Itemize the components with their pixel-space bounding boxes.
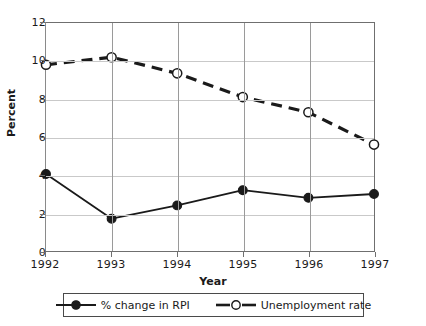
x-tick-label: 1993 (81, 258, 141, 271)
legend-swatch-solid-filled-circle (56, 299, 96, 311)
x-tick-mark (243, 252, 244, 257)
plot-area (45, 22, 375, 252)
y-axis-title: Percent (5, 89, 18, 137)
data-point-marker (238, 186, 247, 195)
x-axis-title: Year (0, 275, 426, 288)
legend-label-unemployment: Unemployment rate (261, 299, 371, 312)
gridline-vertical (178, 23, 179, 251)
gridline-horizontal (46, 61, 374, 62)
gridline-horizontal (46, 176, 374, 177)
chart-legend: % change in RPI Unemployment rate (63, 293, 364, 317)
x-tick-mark (375, 252, 376, 257)
x-tick-label: 1994 (147, 258, 207, 271)
legend-label-rpi: % change in RPI (101, 299, 190, 312)
x-tick-mark (111, 252, 112, 257)
y-tick-mark (40, 175, 45, 176)
y-tick-mark (40, 22, 45, 23)
gridline-vertical (112, 23, 113, 251)
data-point-marker (369, 140, 378, 149)
gridline-horizontal (46, 215, 374, 216)
legend-swatch-solid-open-circle (216, 299, 256, 311)
x-tick-label: 1996 (279, 258, 339, 271)
chart-figure: 024681012 199219931994199519961997 Perce… (0, 0, 426, 326)
gridline-horizontal (46, 138, 374, 139)
series-layer (46, 23, 374, 251)
x-tick-label: 1995 (213, 258, 273, 271)
data-point-marker (370, 190, 379, 199)
y-tick-mark (40, 137, 45, 138)
gridline-horizontal (46, 100, 374, 101)
legend-item-unemployment: Unemployment rate (216, 299, 371, 312)
x-tick-mark (45, 252, 46, 257)
legend-item-rpi: % change in RPI (56, 299, 190, 312)
y-tick-mark (40, 214, 45, 215)
data-point-marker (304, 108, 313, 117)
gridline-vertical (244, 23, 245, 251)
x-tick-label: 1992 (15, 258, 75, 271)
x-tick-label: 1997 (345, 258, 405, 271)
data-point-marker (304, 193, 313, 202)
gridline-vertical (310, 23, 311, 251)
series-line (46, 57, 374, 144)
y-tick-mark (40, 99, 45, 100)
series-line (46, 174, 374, 219)
x-tick-mark (309, 252, 310, 257)
x-tick-mark (177, 252, 178, 257)
y-tick-mark (40, 60, 45, 61)
